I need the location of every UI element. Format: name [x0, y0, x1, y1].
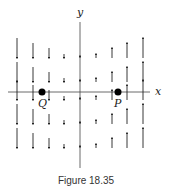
- point-q: [39, 89, 46, 96]
- vector-field-figure: y x QP Figure 18.35: [0, 0, 171, 191]
- point-label-p: P: [113, 97, 122, 110]
- point-label-q: Q: [38, 97, 47, 110]
- x-axis-label: x: [155, 85, 162, 98]
- y-axis-label: y: [76, 6, 84, 19]
- figure-caption: Figure 18.35: [58, 175, 115, 186]
- point-p: [115, 89, 122, 96]
